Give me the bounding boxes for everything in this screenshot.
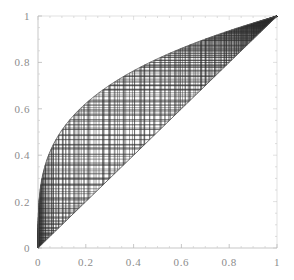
x-tick-label: 0.2 [78,256,94,268]
y-tick-label: 0.2 [14,196,30,208]
x-tick-label: 0.4 [126,256,142,268]
y-tick-label: 0.4 [14,149,30,161]
x-tick-label: 0.6 [174,256,190,268]
plot-canvas: 00.20.40.60.8100.20.40.60.81 [0,0,294,280]
cobweb-diagram-figure: 00.20.40.60.8100.20.40.60.81 [0,0,294,280]
x-tick-label: 1 [274,256,280,268]
y-tick-label: 1 [24,10,30,22]
x-tick-label: 0.8 [221,256,237,268]
y-tick-label: 0 [24,242,30,254]
y-tick-label: 0.8 [14,56,30,68]
x-tick-label: 0 [35,256,41,268]
y-tick-label: 0.6 [14,103,30,115]
